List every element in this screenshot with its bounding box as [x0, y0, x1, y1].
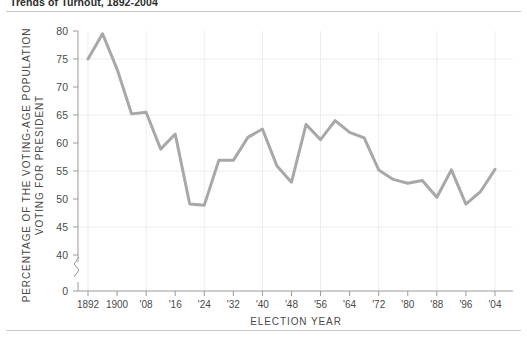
y-tick-label: 40 [56, 249, 68, 261]
x-tick-label: '40 [256, 299, 269, 310]
x-tick-label: 1900 [106, 299, 129, 310]
y-axis-title-line1: PERCENTAGE OF THE VOTING-AGE POPULATION [21, 28, 32, 303]
x-tick-label: '88 [430, 299, 443, 310]
y-tick-label: 45 [56, 221, 68, 233]
x-tick-label: '08 [140, 299, 153, 310]
x-tick-label: '24 [198, 299, 211, 310]
x-tick-label: '56 [314, 299, 327, 310]
y-axis-title-line2: VOTING FOR PRESIDENT [34, 95, 45, 235]
figure-container: Trends of Turnout, 1892-2004 80757065605… [0, 0, 527, 344]
x-tick-label: '16 [169, 299, 182, 310]
x-tick-label: '32 [227, 299, 240, 310]
y-tick-label: 80 [56, 25, 68, 37]
y-tick-label: 75 [56, 53, 68, 65]
x-axis-title: ELECTION YEAR [250, 316, 342, 327]
y-tick-label: 0 [62, 285, 68, 297]
x-axis-ticks: 18921900'08'16'24'32'40'48'56'64'72'80'8… [77, 291, 502, 310]
x-tick-label: '04 [488, 299, 501, 310]
y-tick-label: 50 [56, 193, 68, 205]
y-tick-label: 60 [56, 137, 68, 149]
y-tick-label: 55 [56, 165, 68, 177]
x-tick-label: '80 [401, 299, 414, 310]
x-tick-label: '96 [459, 299, 472, 310]
x-tick-label: '64 [343, 299, 356, 310]
line-chart: 8075706560555045400 18921900'08'16'24'32… [0, 0, 527, 344]
x-tick-label: '72 [372, 299, 385, 310]
x-tick-label: '48 [285, 299, 298, 310]
y-tick-label: 70 [56, 81, 68, 93]
y-tick-label: 65 [56, 109, 68, 121]
x-tick-label: 1892 [77, 299, 100, 310]
turnout-data-line [88, 34, 495, 205]
y-axis-ticks: 8075706560555045400 [56, 25, 78, 297]
